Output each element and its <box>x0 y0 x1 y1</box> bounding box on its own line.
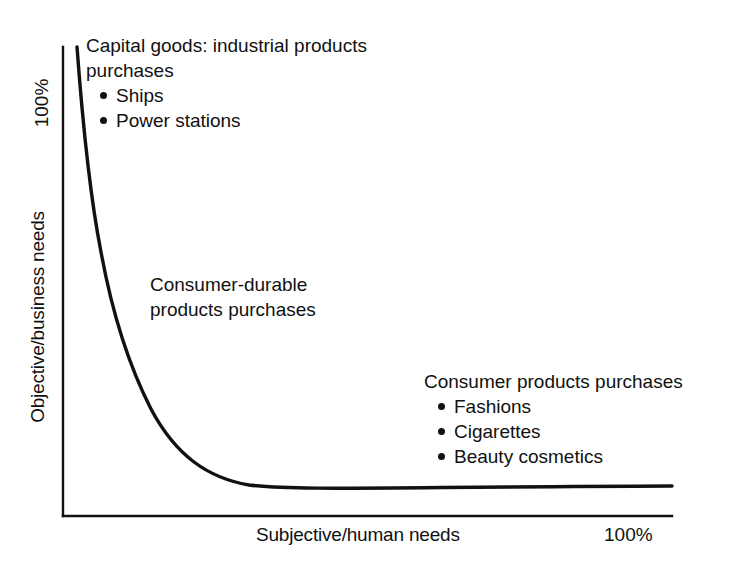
y-axis-title: Objective/business needs <box>27 167 49 467</box>
bullet-dot-icon <box>100 92 107 99</box>
annotation-capital-goods-line2: purchases <box>86 58 367 83</box>
annotation-consumer-products: Consumer products purchases Fashions Cig… <box>424 369 683 469</box>
annotation-capital-goods: Capital goods: industrial products purch… <box>86 33 367 133</box>
bullet-dot-icon <box>100 117 107 124</box>
x-axis-title: Subjective/human needs <box>256 524 460 546</box>
list-item: Ships <box>100 83 367 108</box>
annotation-consumer-products-list: Fashions Cigarettes Beauty cosmetics <box>424 394 683 469</box>
list-item: Power stations <box>100 108 367 133</box>
annotation-consumer-durable-line1: Consumer-durable <box>150 272 316 297</box>
chart-figure: Objective/business needs Subjective/huma… <box>0 0 731 579</box>
annotation-consumer-durable: Consumer-durable products purchases <box>150 272 316 322</box>
list-item-label: Beauty cosmetics <box>454 446 603 467</box>
annotation-consumer-products-line1: Consumer products purchases <box>424 369 683 394</box>
y-axis-max-tick-label: 100% <box>31 53 53 153</box>
annotation-consumer-durable-line2: products purchases <box>150 297 316 322</box>
bullet-dot-icon <box>438 428 445 435</box>
list-item-label: Power stations <box>116 110 241 131</box>
list-item-label: Fashions <box>454 396 531 417</box>
list-item: Fashions <box>438 394 683 419</box>
list-item: Cigarettes <box>438 419 683 444</box>
bullet-dot-icon <box>438 403 445 410</box>
x-axis-max-tick-label: 100% <box>604 524 653 546</box>
annotation-capital-goods-list: Ships Power stations <box>86 83 367 133</box>
annotation-capital-goods-line1: Capital goods: industrial products <box>86 33 367 58</box>
list-item-label: Cigarettes <box>454 421 541 442</box>
list-item: Beauty cosmetics <box>438 444 683 469</box>
bullet-dot-icon <box>438 453 445 460</box>
list-item-label: Ships <box>116 85 164 106</box>
